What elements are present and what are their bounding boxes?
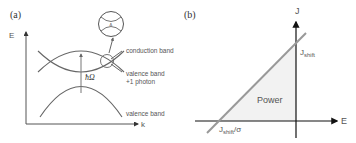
- inset-gap-mark: Δ: [110, 22, 113, 27]
- e-intercept-label: Jshift/σ: [219, 125, 241, 135]
- label-valence-photon-1: valence band: [126, 70, 165, 77]
- photon-energy-label: ħΩ: [85, 73, 95, 82]
- label-valence-band: valence band: [126, 110, 165, 117]
- label-valence-photon-2: +1 photon: [126, 78, 155, 86]
- j-intercept-label: Jshift: [300, 48, 315, 58]
- axis-label-e: E: [9, 31, 14, 40]
- panel-b-label: (b): [184, 9, 196, 21]
- axis-label-e-b: E: [341, 116, 347, 126]
- axis-label-j: J: [295, 6, 300, 16]
- figure: (a) E k ħΩ Δ conduction band valence ban…: [0, 0, 356, 143]
- power-label: Power: [257, 95, 283, 105]
- zoom-arrow: [109, 38, 113, 53]
- panel-a-label: (a): [10, 9, 21, 21]
- axis-label-k: k: [141, 120, 146, 129]
- panel-a: (a) E k ħΩ Δ conduction band valence ban…: [9, 9, 174, 129]
- panel-b: (b) J E Jshift Jshift/σ Power: [184, 6, 347, 138]
- label-conduction-band: conduction band: [126, 47, 174, 54]
